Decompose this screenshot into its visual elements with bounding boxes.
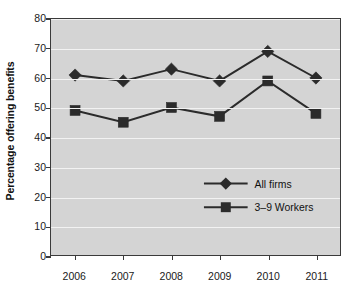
legend-label-1: All firms [255,179,292,190]
x-axis-tick-mark [317,255,318,260]
x-axis-tick-mark [269,255,270,260]
gridline [51,168,340,169]
x-axis-tick-label: 2006 [63,270,86,282]
chart-legend: All firms3–9 Workers [204,177,314,213]
legend-label-2: 3–9 Workers [255,202,314,213]
gridline [51,227,340,228]
plot-area: All firms3–9 Workers [50,18,341,256]
series-group [69,45,322,127]
x-axis-tick-mark [172,255,173,260]
gridline [51,108,340,109]
y-axis-tick-mark [46,18,51,19]
y-axis-tick-mark [46,137,51,138]
y-axis-tick-label: 70 [24,42,46,54]
y-axis-title: Percentage offering benefits [0,0,20,262]
plot-svg: All firms3–9 Workers [51,19,340,255]
square-icon [215,111,225,121]
x-axis-tick-label: 2009 [208,270,231,282]
y-axis-tick-label: 20 [24,191,46,203]
x-axis-tick-label: 2011 [305,270,328,282]
y-axis-tick-mark [46,227,51,228]
diamond-icon [262,45,274,57]
y-axis-tick-mark [46,197,51,198]
square-icon [263,76,273,86]
x-axis-tick-label: 2008 [160,270,183,282]
y-axis-tick-mark [46,167,51,168]
gridline [51,198,340,199]
square-icon [311,108,321,118]
y-axis-tick-mark [46,78,51,79]
x-axis-tick-label: 2010 [257,270,280,282]
x-axis-tick-mark [220,255,221,260]
y-axis-tick-label: 40 [24,131,46,143]
y-axis-tick-label: 80 [24,12,46,24]
square-icon [221,202,231,212]
line-chart: Percentage offering benefits 01020304050… [0,0,354,286]
x-axis-tick-labels: 200620072008200920102011 [50,262,341,282]
y-axis-tick-mark [46,108,51,109]
y-axis-tick-label: 10 [24,220,46,232]
gridline [51,79,340,80]
square-icon [118,117,128,127]
diamond-icon [220,177,232,189]
gridline [51,49,340,50]
square-icon [70,105,80,115]
diamond-icon [117,75,129,87]
y-axis-tick-mark [46,256,51,257]
y-axis-tick-label: 60 [24,72,46,84]
gridline [51,19,340,20]
y-axis-tick-labels: 01020304050607080 [22,0,46,286]
x-axis-tick-label: 2007 [111,270,134,282]
y-axis-tick-label: 30 [24,161,46,173]
y-axis-tick-label: 50 [24,101,46,113]
y-axis-tick-mark [46,48,51,49]
y-axis-tick-label: 0 [24,250,46,262]
diamond-icon [165,63,177,75]
x-axis-tick-mark [75,255,76,260]
diamond-icon [213,75,225,87]
series-line-1 [75,51,316,80]
x-axis-tick-mark [123,255,124,260]
gridline [51,138,340,139]
y-axis-title-text: Percentage offering benefits [4,62,16,201]
series-line-2 [75,81,316,122]
